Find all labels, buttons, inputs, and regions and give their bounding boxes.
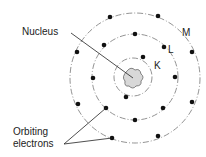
orbiting-label-1: Orbiting [13,126,48,137]
electron-pointer-1 [64,108,106,144]
shell-m-label: M [182,27,190,38]
shell-k-label: K [154,60,161,71]
electron-pointer-2 [64,138,112,144]
nucleus-label: Nucleus [22,26,58,37]
nucleus-pointer [71,33,133,78]
nucleus-icon [123,68,143,88]
shell-l-label: L [168,44,174,55]
atom-diagram: Nucleus M L K Orbiting electrons [0,0,206,157]
orbiting-label-2: electrons [13,138,54,149]
